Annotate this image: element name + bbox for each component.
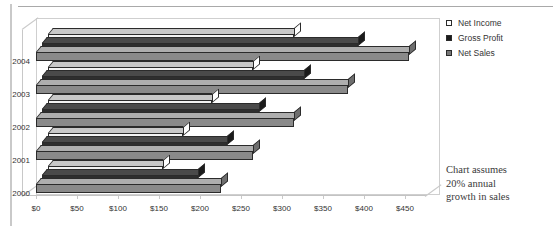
y-axis-label-2004: 2004	[12, 57, 30, 66]
y-axis-label-2003: 2003	[12, 90, 30, 99]
chart-annotation-note: Chart assumes 20% annual growth in sales	[446, 163, 556, 204]
x-axis-tick-mark	[323, 196, 324, 199]
legend-item-gross-profit[interactable]: Gross Profit	[446, 31, 551, 44]
x-axis-tick-label-300: $300	[273, 204, 291, 213]
x-axis-tick-label-50: $50	[70, 204, 83, 213]
bar-group-2003	[36, 61, 456, 94]
bar-group-2000	[36, 160, 456, 193]
bar-end-cap	[358, 31, 365, 46]
bar-group-2001	[36, 127, 456, 160]
bar-group-2002	[36, 94, 456, 127]
legend-item-net-sales[interactable]: Net Sales	[446, 46, 551, 59]
chart-legend: Net IncomeGross ProfitNet Sales	[446, 16, 551, 61]
bar-end-cap	[259, 97, 266, 112]
legend-label: Gross Profit	[458, 33, 503, 43]
note-line-1: Chart assumes	[446, 163, 556, 177]
x-axis-tick-mark	[77, 196, 78, 199]
bar-end-cap	[198, 163, 205, 178]
bar-end-cap	[221, 172, 228, 187]
bar-end-cap	[348, 73, 355, 88]
note-line-2: 20% annual	[446, 177, 556, 191]
bar-net_sales-2004[interactable]	[36, 52, 409, 61]
square-gray-icon	[446, 50, 452, 56]
x-axis-tick-mark	[200, 196, 201, 199]
square-filled-icon	[446, 35, 452, 41]
note-line-3: growth in sales	[446, 190, 556, 204]
bar-net_sales-2002[interactable]	[36, 118, 294, 127]
bar-front-face	[36, 52, 409, 61]
x-axis-tick-label-200: $200	[191, 204, 209, 213]
x-axis-tick-label-100: $100	[109, 204, 127, 213]
bar-chart: 20042003200220012000 $0$50$100$150$200$2…	[0, 0, 559, 233]
legend-label: Net Income	[458, 18, 501, 28]
bar-end-cap	[304, 64, 311, 79]
x-axis-tick-mark	[364, 196, 365, 199]
x-axis-tick-label-0: $0	[32, 204, 41, 213]
bar-front-face	[36, 184, 221, 193]
bar-end-cap	[409, 40, 416, 55]
bar-net_sales-2001[interactable]	[36, 151, 253, 160]
y-axis-label-2002: 2002	[12, 123, 30, 132]
x-axis: $0$50$100$150$200$250$300$350$400$450	[22, 196, 452, 218]
legend-item-net-income[interactable]: Net Income	[446, 16, 551, 29]
x-axis-tick-mark	[36, 196, 37, 199]
bar-front-face	[36, 85, 348, 94]
x-axis-tick-label-400: $400	[355, 204, 373, 213]
bar-end-cap	[294, 106, 301, 121]
bar-group-2004	[36, 28, 456, 61]
x-axis-tick-mark	[282, 196, 283, 199]
chart-page: 20042003200220012000 $0$50$100$150$200$2…	[0, 0, 559, 233]
y-axis-label-2001: 2001	[12, 156, 30, 165]
bar-front-face	[36, 118, 294, 127]
x-axis-tick-mark	[159, 196, 160, 199]
x-axis-tick-mark	[405, 196, 406, 199]
bar-end-cap	[253, 139, 260, 154]
bar-net_sales-2000[interactable]	[36, 184, 221, 193]
bar-end-cap	[227, 130, 234, 145]
x-axis-tick-mark	[241, 196, 242, 199]
y-axis-category-labels: 20042003200220012000	[0, 18, 34, 195]
bar-front-face	[36, 151, 253, 160]
bar-net_sales-2003[interactable]	[36, 85, 348, 94]
x-axis-tick-label-350: $350	[314, 204, 332, 213]
square-outline-icon	[446, 20, 452, 26]
x-axis-tick-label-250: $250	[232, 204, 250, 213]
legend-label: Net Sales	[458, 48, 495, 58]
x-axis-tick-label-150: $150	[150, 204, 168, 213]
x-axis-tick-mark	[118, 196, 119, 199]
x-axis-tick-label-450: $450	[396, 204, 414, 213]
